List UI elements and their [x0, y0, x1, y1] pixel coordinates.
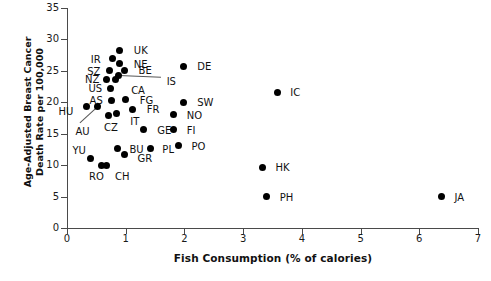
- data-point-label: JA: [455, 193, 465, 203]
- data-point-label: SW: [197, 98, 213, 108]
- x-axis-line: [67, 228, 479, 229]
- data-point: [129, 106, 136, 113]
- y-axis-title: Age-Adjusted Breast Cancer Death Rate pe…: [22, 12, 46, 212]
- data-point: [180, 99, 187, 106]
- y-tick-mark: [61, 197, 67, 198]
- data-point-label: IC: [290, 88, 300, 98]
- y-axis-line: [67, 8, 68, 229]
- x-axis-title: Fish Consumption (% of calories): [67, 252, 479, 264]
- y-tick-label-wrap: 0: [33, 223, 59, 233]
- y-tick-mark: [61, 134, 67, 135]
- data-point: [107, 85, 114, 92]
- x-tick-label: 3: [233, 233, 253, 244]
- data-point-label: NO: [187, 111, 202, 121]
- y-tick-mark: [61, 165, 67, 166]
- y-tick-mark: [61, 71, 67, 72]
- data-point-label: PH: [280, 193, 294, 203]
- y-axis-title-line2: Death Rate per 100,000: [34, 12, 46, 212]
- y-axis-title-line1: Age-Adjusted Breast Cancer: [22, 12, 34, 212]
- data-point-label: YU: [72, 146, 85, 156]
- data-point-label: BE: [139, 66, 152, 76]
- data-point: [116, 47, 123, 54]
- x-tick-label: 7: [468, 233, 488, 244]
- data-point: [112, 76, 119, 83]
- data-point-label: AU: [76, 127, 90, 137]
- data-point: [170, 126, 177, 133]
- data-point: [147, 145, 154, 152]
- scatter-chart: 0510152025303501234567 UKIRNEBESZNZISCAU…: [0, 0, 491, 281]
- data-point: [175, 142, 182, 149]
- data-point-label: PL: [162, 145, 174, 155]
- data-point: [106, 67, 113, 74]
- data-point: [140, 126, 147, 133]
- data-point-label: CZ: [104, 123, 118, 133]
- y-tick-label: 0: [33, 223, 59, 233]
- label-leader-line: [119, 75, 161, 78]
- x-tick-label: 2: [174, 233, 194, 244]
- data-point-label: US: [88, 84, 102, 94]
- x-tick-label: 0: [57, 233, 77, 244]
- data-point: [103, 76, 110, 83]
- data-point: [259, 164, 266, 171]
- x-tick-label: 5: [351, 233, 371, 244]
- data-point-label: PO: [192, 142, 206, 152]
- data-point: [170, 111, 177, 118]
- data-point-label: HK: [276, 163, 290, 173]
- data-point-label: IT: [130, 117, 139, 127]
- data-point-label: FR: [147, 105, 160, 115]
- data-point-label: DE: [197, 62, 211, 72]
- data-point: [438, 193, 445, 200]
- data-point-label: IS: [167, 77, 176, 87]
- data-point: [94, 103, 101, 110]
- data-point: [113, 110, 120, 117]
- data-point: [121, 67, 128, 74]
- data-point: [87, 155, 94, 162]
- data-point-label: UK: [134, 46, 148, 56]
- data-point-label: CH: [115, 172, 130, 182]
- data-point: [122, 96, 129, 103]
- data-point: [121, 151, 128, 158]
- data-point: [108, 97, 115, 104]
- data-point-label: GR: [138, 154, 153, 164]
- data-point: [83, 103, 90, 110]
- x-tick-label: 4: [292, 233, 312, 244]
- y-tick-mark: [61, 8, 67, 9]
- y-tick-mark: [61, 102, 67, 103]
- data-point: [114, 145, 121, 152]
- data-point: [105, 112, 112, 119]
- data-point: [274, 89, 281, 96]
- x-tick-label: 1: [116, 233, 136, 244]
- y-tick-mark: [61, 39, 67, 40]
- data-point-label: RO: [89, 172, 104, 182]
- data-point: [180, 63, 187, 70]
- data-point-label: FI: [187, 126, 196, 136]
- data-point-label: HU: [58, 107, 73, 117]
- data-point-label: GE: [157, 126, 171, 136]
- data-point: [103, 162, 110, 169]
- data-point: [263, 193, 270, 200]
- x-tick-label: 6: [409, 233, 429, 244]
- data-point-label: IR: [91, 55, 101, 65]
- data-point: [109, 55, 116, 62]
